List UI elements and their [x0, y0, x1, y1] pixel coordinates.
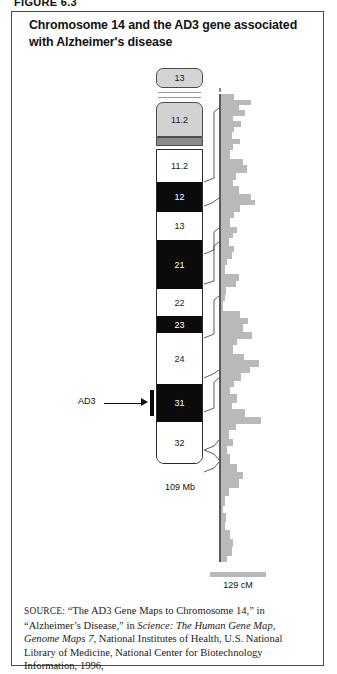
histogram-bar	[221, 439, 233, 446]
histogram-bar	[221, 430, 229, 439]
histogram-bar	[221, 373, 242, 381]
histogram-bar	[221, 205, 240, 212]
histogram-bar	[221, 394, 238, 403]
histogram-bar	[221, 345, 233, 354]
histogram-bar	[221, 479, 239, 488]
figure-stage: 13 11.2 11.2 12 13 21 22 23 24 31 32 109…	[0, 0, 337, 674]
genetic-length-label: 129 cM	[195, 580, 281, 590]
histogram-bar	[221, 165, 247, 173]
histogram-bar	[221, 539, 233, 547]
gene-density-histogram	[219, 94, 279, 562]
band-connector-leaders	[0, 0, 337, 674]
histogram-bar	[221, 530, 231, 539]
histogram-bar	[221, 252, 232, 259]
histogram-bar	[221, 454, 231, 464]
histogram-bar	[221, 446, 228, 454]
histogram-bar	[221, 218, 231, 227]
histogram-bar	[221, 387, 231, 394]
histogram-bar	[221, 360, 260, 367]
histogram-bar	[221, 332, 253, 339]
histogram-top-tick	[219, 88, 221, 92]
histogram-bar	[221, 547, 232, 556]
histogram-bar	[221, 472, 243, 479]
histogram-bar	[221, 238, 229, 246]
histogram-bar	[221, 417, 261, 424]
source-note: SOURCE: “The AD3 Gene Maps to Chromosome…	[24, 604, 312, 674]
histogram-bar	[221, 173, 236, 180]
histogram-bar	[221, 556, 228, 562]
histogram-bar	[221, 301, 224, 311]
genetic-length-bar	[210, 572, 266, 577]
histogram-bar	[221, 265, 225, 274]
histogram-bar	[221, 506, 224, 513]
source-prefix: SOURCE:	[24, 606, 65, 616]
histogram-bar	[221, 464, 238, 472]
histogram-bar	[221, 287, 227, 295]
histogram-bar	[221, 132, 232, 139]
histogram-bar	[221, 409, 246, 417]
histogram-bar	[221, 311, 240, 318]
histogram-bar	[221, 324, 243, 332]
histogram-bar	[221, 522, 225, 530]
histogram-bar	[221, 150, 231, 159]
histogram-bar	[221, 274, 239, 281]
histogram-bar	[221, 496, 225, 506]
histogram-bar	[221, 488, 229, 496]
histogram-bar	[221, 513, 227, 522]
histogram-bar	[221, 186, 239, 194]
